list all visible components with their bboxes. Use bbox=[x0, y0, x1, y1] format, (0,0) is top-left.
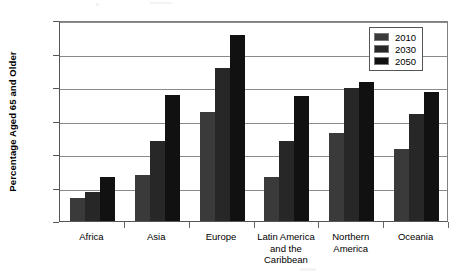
x-axis-tick-mark bbox=[189, 222, 190, 228]
x-axis-tick-mark bbox=[448, 222, 449, 228]
bar-group bbox=[255, 22, 320, 221]
bar-group bbox=[60, 22, 125, 221]
legend-label: 2050 bbox=[395, 56, 416, 67]
legend-item: 2010 bbox=[374, 31, 416, 43]
x-axis-label: Africa bbox=[59, 231, 124, 243]
x-axis-label: Europe bbox=[189, 231, 254, 243]
bar-group bbox=[125, 22, 190, 221]
x-axis-label: NorthernAmerica bbox=[318, 231, 383, 254]
x-axis-tick-mark bbox=[124, 222, 125, 228]
bar bbox=[150, 141, 165, 221]
bar-group bbox=[190, 22, 255, 221]
bar-chart: Percentage Aged 65 and Older 05101520253… bbox=[0, 0, 459, 279]
x-axis-label: Latin Americaand theCaribbean bbox=[254, 231, 319, 266]
bar bbox=[329, 133, 344, 221]
legend-swatch bbox=[374, 57, 389, 65]
x-axis-tick-mark bbox=[318, 222, 319, 228]
bar bbox=[165, 95, 180, 221]
legend-item: 2050 bbox=[374, 55, 416, 67]
bar bbox=[135, 175, 150, 221]
bar bbox=[264, 177, 279, 221]
x-axis-label-line: Northern bbox=[318, 231, 383, 243]
bar bbox=[394, 149, 409, 221]
legend-label: 2010 bbox=[395, 32, 416, 43]
x-axis-label-line: and the bbox=[254, 243, 319, 255]
bar bbox=[230, 35, 245, 221]
x-axis-label-line: Europe bbox=[189, 231, 254, 243]
legend-item: 2030 bbox=[374, 43, 416, 55]
x-axis-label: Oceania bbox=[383, 231, 448, 243]
x-axis-label-line: America bbox=[318, 243, 383, 255]
x-axis-label-line: Africa bbox=[59, 231, 124, 243]
bar bbox=[85, 192, 100, 221]
scan-artifact bbox=[96, 3, 99, 6]
bar bbox=[424, 92, 439, 221]
bar bbox=[200, 112, 215, 221]
bar bbox=[294, 96, 309, 221]
y-axis-tick-mark bbox=[53, 222, 59, 223]
scan-artifact bbox=[150, 2, 172, 4]
x-axis-label-line: Latin America bbox=[254, 231, 319, 243]
x-axis-label: Asia bbox=[124, 231, 189, 243]
bar bbox=[279, 141, 294, 221]
legend-label: 2030 bbox=[395, 44, 416, 55]
bar bbox=[344, 88, 359, 221]
x-axis-label-line: Asia bbox=[124, 231, 189, 243]
legend-swatch bbox=[374, 45, 389, 53]
y-axis-title: Percentage Aged 65 and Older bbox=[7, 22, 18, 222]
scan-artifact bbox=[300, 268, 316, 271]
bar bbox=[359, 82, 374, 221]
x-axis-label-line: Oceania bbox=[383, 231, 448, 243]
bar bbox=[70, 198, 85, 221]
legend-swatch bbox=[374, 33, 389, 41]
legend: 201020302050 bbox=[369, 27, 423, 71]
x-axis-tick-mark bbox=[254, 222, 255, 228]
x-axis-tick-mark bbox=[383, 222, 384, 228]
x-axis-label-line: Caribbean bbox=[254, 254, 319, 266]
bar bbox=[215, 68, 230, 221]
bar bbox=[100, 177, 115, 221]
bar bbox=[409, 114, 424, 221]
